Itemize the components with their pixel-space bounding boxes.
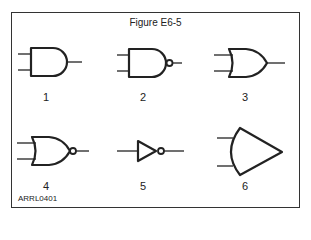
nor-gate-icon — [17, 137, 89, 165]
and-gate-icon — [18, 48, 82, 76]
or-gate-icon — [214, 49, 285, 77]
gate-label-2: 2 — [133, 91, 153, 103]
figure-credit: ARRL0401 — [18, 194, 57, 203]
nand-gate-icon — [117, 49, 182, 77]
inverter-icon — [117, 141, 184, 161]
gate-label-4: 4 — [36, 180, 56, 192]
gate-label-3: 3 — [235, 91, 255, 103]
gate-label-1: 1 — [36, 91, 56, 103]
gate-label-5: 5 — [133, 180, 153, 192]
gate-label-6: 6 — [235, 180, 255, 192]
gate-6-icon — [217, 128, 282, 175]
